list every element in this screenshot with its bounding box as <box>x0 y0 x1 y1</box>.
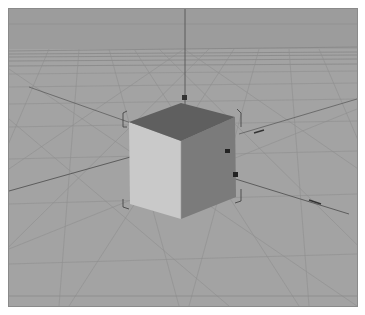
y-axis-handle-icon[interactable] <box>182 95 187 100</box>
cube-object[interactable] <box>129 103 236 219</box>
sky-background <box>9 9 357 49</box>
x-axis-handle-icon[interactable] <box>225 149 230 153</box>
z-axis-handle-icon[interactable] <box>233 172 238 177</box>
viewport-canvas[interactable] <box>9 9 357 306</box>
3d-viewport[interactable] <box>8 8 358 307</box>
